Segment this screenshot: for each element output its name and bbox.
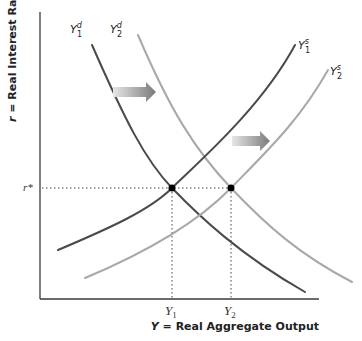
supply-shift-arrow — [232, 131, 270, 151]
y1-tick-label: Y1 — [165, 303, 177, 320]
y2-tick-label: Y2 — [224, 303, 236, 320]
curve-y1s — [58, 45, 295, 250]
x-axis-label: Y = Real Aggregate Output — [151, 320, 319, 333]
curve-y2s — [85, 70, 328, 278]
y-axis-label-text: = Real Interest Rate — [6, 0, 19, 117]
loanable-funds-diagram: r = Real Interest Rate Yd1Yd2Ys1Ys2 r* Y… — [0, 0, 362, 341]
curves: Yd1Yd2Ys1Ys2 — [58, 21, 352, 292]
curve-y1d — [92, 45, 305, 292]
new-equilibrium-point — [228, 185, 235, 192]
curve-y2d — [138, 35, 352, 282]
r-star-label: r* — [23, 181, 33, 193]
guide-lines — [42, 188, 231, 298]
curve-label-y1d: Yd1 — [70, 21, 83, 39]
shift-arrows — [113, 82, 270, 151]
axes — [40, 12, 319, 299]
curve-label-y2s: Ys2 — [330, 63, 342, 81]
demand-shift-arrow — [113, 82, 156, 102]
curve-label-y1s: Ys1 — [298, 37, 310, 55]
initial-equilibrium-point — [169, 185, 176, 192]
y-axis-label: r = Real Interest Rate — [6, 0, 19, 122]
curve-label-y2d: Yd2 — [110, 21, 123, 39]
